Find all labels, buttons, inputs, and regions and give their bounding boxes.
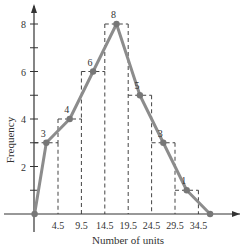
data-point	[67, 116, 73, 122]
point-value-label: 3	[158, 128, 163, 139]
point-value-label: 1	[181, 175, 186, 186]
x-tick-label: 24.5	[143, 220, 161, 231]
point-value-label: 5	[134, 80, 139, 91]
tick-labels: 24684.59.514.519.524.529.534.5	[21, 19, 207, 231]
data-point	[160, 140, 166, 146]
x-axis-label: Number of units	[92, 234, 164, 246]
chart-canvas: 3468531 24684.59.514.519.524.529.534.5 N…	[0, 0, 245, 249]
frequency-polygon-chart: 3468531 24684.59.514.519.524.529.534.5 N…	[0, 0, 245, 249]
point-value-label: 8	[111, 9, 116, 20]
x-tick-label: 29.5	[166, 220, 184, 231]
x-axis-arrow-icon	[232, 211, 240, 217]
x-tick-label: 4.5	[52, 220, 65, 231]
y-tick-label: 8	[21, 19, 26, 30]
y-axis-label: Frequency	[4, 116, 16, 163]
x-tick-label: 19.5	[119, 220, 137, 231]
x-tick-label: 34.5	[190, 220, 208, 231]
data-point	[184, 187, 190, 193]
x-tick-label: 9.5	[75, 220, 88, 231]
point-labels: 3468531	[41, 9, 186, 186]
point-value-label: 4	[64, 104, 69, 115]
y-tick-label: 6	[21, 67, 26, 78]
data-point	[43, 140, 49, 146]
data-point	[31, 211, 37, 217]
y-axis-arrow-icon	[31, 4, 37, 13]
data-point	[113, 21, 119, 27]
data-point	[137, 92, 143, 98]
y-tick-label: 2	[21, 162, 26, 173]
data-point	[207, 211, 213, 217]
point-value-label: 3	[41, 128, 46, 139]
y-tick-label: 4	[21, 114, 26, 125]
histogram-dashed-outline	[35, 24, 199, 214]
x-tick-label: 14.5	[96, 220, 114, 231]
data-point	[90, 68, 96, 74]
point-value-label: 6	[88, 57, 93, 68]
